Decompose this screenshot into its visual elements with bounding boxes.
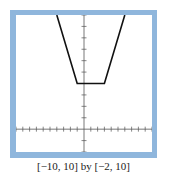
graph-screen: [16, 15, 152, 152]
window-range-caption: [−10, 10] by [−2, 10]: [0, 160, 167, 172]
graph-curve: [57, 15, 125, 84]
plot-area: [16, 15, 152, 152]
